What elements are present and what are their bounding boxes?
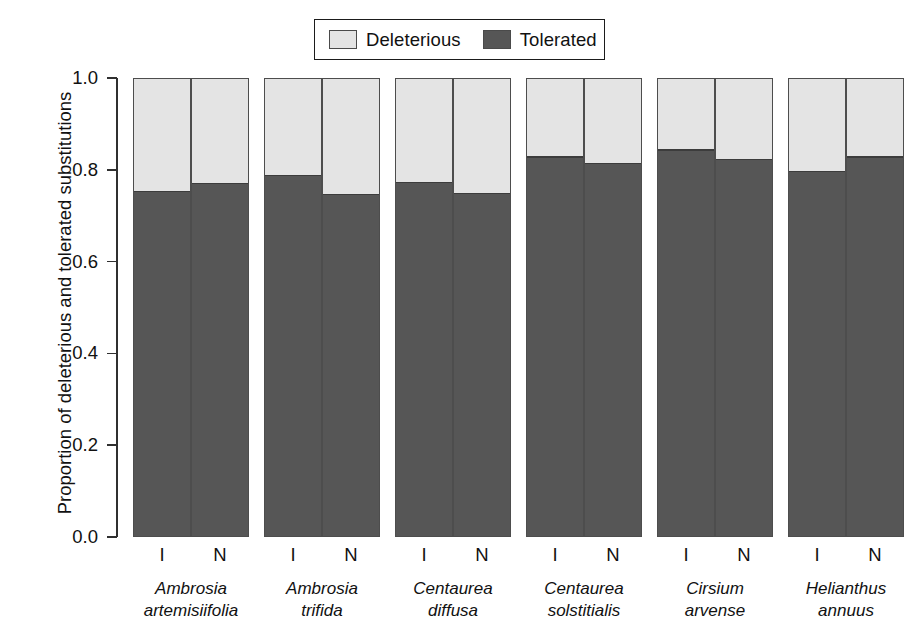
bar-segment-tolerated — [658, 151, 714, 536]
species-label: Ambrosiatrifida — [247, 578, 397, 622]
species-genus: Centaurea — [378, 578, 528, 600]
bar-group — [657, 78, 773, 537]
x-tick-label-i: I — [273, 546, 313, 565]
bar-segment-boundary — [585, 163, 641, 164]
y-tick-label-0.8: 0.8 — [46, 161, 98, 180]
x-tick-label-n: N — [462, 546, 502, 565]
bar-segment-tolerated — [454, 194, 510, 536]
species-epithet: arvense — [640, 600, 790, 622]
y-tick-label-0.4: 0.4 — [46, 344, 98, 363]
y-tick-mark-0.2 — [107, 444, 117, 446]
species-label: Centaureadiffusa — [378, 578, 528, 622]
x-tick-label-i: I — [404, 546, 444, 565]
stacked-bar[interactable] — [395, 78, 453, 537]
legend-swatch-tolerated — [483, 30, 511, 49]
x-tick-label-n: N — [855, 546, 895, 565]
stacked-bar[interactable] — [133, 78, 191, 537]
legend-swatch-deleterious — [329, 30, 357, 49]
bar-group — [788, 78, 904, 537]
species-genus: Ambrosia — [247, 578, 397, 600]
bar-segment-tolerated — [265, 176, 321, 536]
bar-segment-boundary — [134, 191, 190, 192]
stacked-bar[interactable] — [322, 78, 380, 537]
stacked-bar[interactable] — [584, 78, 642, 537]
legend-entry-deleterious: Deleterious — [329, 29, 461, 51]
species-genus: Centaurea — [509, 578, 659, 600]
bar-segment-boundary — [396, 182, 452, 183]
bar-segment-tolerated — [789, 172, 845, 536]
bar-segment-boundary — [527, 156, 583, 157]
stacked-bar[interactable] — [453, 78, 511, 537]
x-tick-label-n: N — [200, 546, 240, 565]
bar-segment-boundary — [658, 149, 714, 150]
y-tick-mark-0.4 — [107, 353, 117, 355]
stacked-bar[interactable] — [846, 78, 904, 537]
bar-segment-tolerated — [396, 183, 452, 536]
species-epithet: diffusa — [378, 600, 528, 622]
y-tick-label-1.0: 1.0 — [46, 69, 98, 88]
stacked-bar-chart-figure: Deleterious Tolerated Proportion of dele… — [0, 0, 918, 637]
legend-entry-tolerated: Tolerated — [483, 29, 597, 51]
y-tick-mark-0.8 — [107, 169, 117, 171]
x-tick-label-n: N — [331, 546, 371, 565]
stacked-bar[interactable] — [788, 78, 846, 537]
species-genus: Cirsium — [640, 578, 790, 600]
plot-area — [133, 78, 915, 537]
bar-group — [526, 78, 642, 537]
species-epithet: artemisiifolia — [116, 600, 266, 622]
y-tick-mark-0.0 — [107, 536, 117, 538]
bar-segment-tolerated — [323, 195, 379, 536]
y-tick-mark-0.6 — [107, 261, 117, 263]
bar-segment-tolerated — [192, 184, 248, 536]
bar-segment-tolerated — [585, 164, 641, 536]
legend-label-tolerated: Tolerated — [520, 29, 597, 51]
bar-segment-boundary — [847, 156, 903, 157]
x-tick-label-i: I — [142, 546, 182, 565]
bar-segment-boundary — [192, 183, 248, 184]
bar-segment-tolerated — [134, 192, 190, 536]
y-axis-line — [116, 78, 118, 537]
bar-group — [133, 78, 249, 537]
x-tick-label-n: N — [724, 546, 764, 565]
species-label: Helianthusannuus — [771, 578, 918, 622]
bar-segment-boundary — [265, 175, 321, 176]
y-tick-label-0.6: 0.6 — [46, 253, 98, 272]
bar-segment-boundary — [323, 194, 379, 195]
bar-group — [264, 78, 380, 537]
bar-segment-boundary — [716, 159, 772, 160]
species-label: Ambrosiaartemisiifolia — [116, 578, 266, 622]
species-epithet: solstitialis — [509, 600, 659, 622]
bar-group — [395, 78, 511, 537]
bar-segment-tolerated — [716, 160, 772, 536]
species-epithet: trifida — [247, 600, 397, 622]
chart-legend: Deleterious Tolerated — [314, 19, 605, 60]
species-epithet: annuus — [771, 600, 918, 622]
species-genus: Ambrosia — [116, 578, 266, 600]
y-tick-label-0.0: 0.0 — [46, 528, 98, 547]
species-genus: Helianthus — [771, 578, 918, 600]
bar-segment-boundary — [454, 193, 510, 194]
stacked-bar[interactable] — [715, 78, 773, 537]
species-label: Cirsiumarvense — [640, 578, 790, 622]
stacked-bar[interactable] — [191, 78, 249, 537]
stacked-bar[interactable] — [657, 78, 715, 537]
x-tick-label-i: I — [535, 546, 575, 565]
stacked-bar[interactable] — [264, 78, 322, 537]
x-tick-label-i: I — [666, 546, 706, 565]
y-tick-label-0.2: 0.2 — [46, 436, 98, 455]
x-tick-label-n: N — [593, 546, 633, 565]
bar-segment-tolerated — [847, 158, 903, 536]
y-tick-mark-1.0 — [107, 77, 117, 79]
stacked-bar[interactable] — [526, 78, 584, 537]
species-label: Centaureasolstitialis — [509, 578, 659, 622]
y-axis-title: Proportion of deleterious and tolerated … — [54, 68, 76, 538]
bar-segment-tolerated — [527, 158, 583, 536]
x-tick-label-i: I — [797, 546, 837, 565]
bar-segment-boundary — [789, 171, 845, 172]
legend-label-deleterious: Deleterious — [366, 29, 461, 51]
